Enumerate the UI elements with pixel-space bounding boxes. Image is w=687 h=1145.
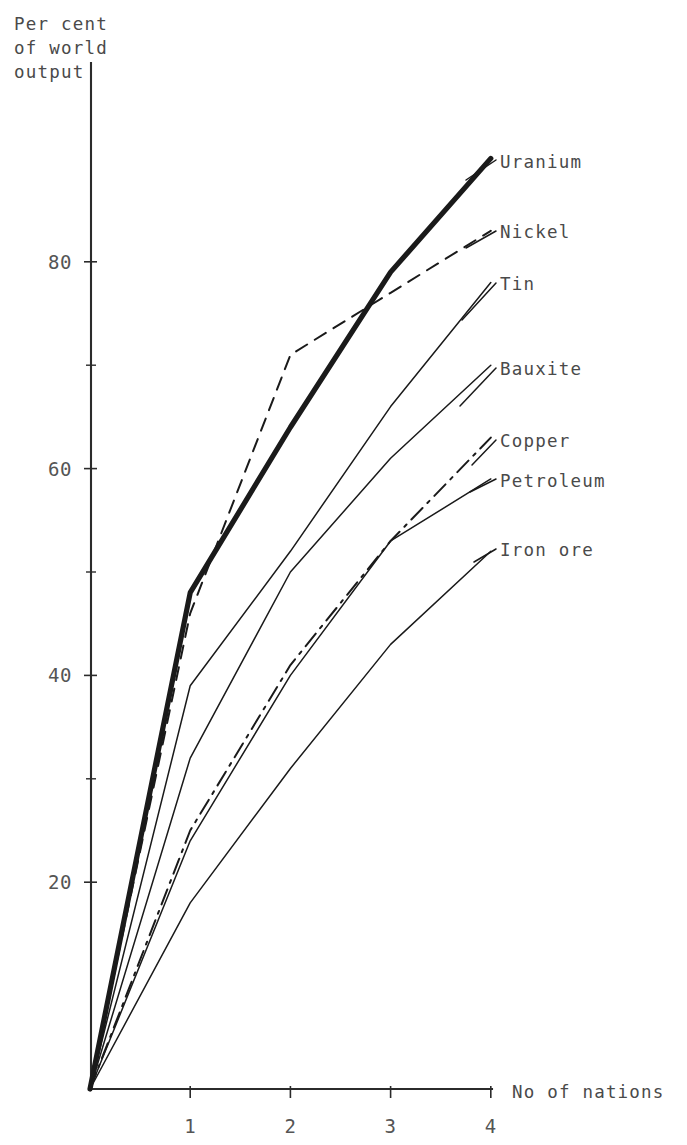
y-axis-ticks: 20406080 (48, 251, 97, 893)
line-chart: Per cent of world output No of nations 2… (0, 0, 687, 1145)
chart-container: Per cent of world output No of nations 2… (0, 0, 687, 1145)
series-label-iron-ore: Iron ore (500, 540, 594, 560)
series-line-nickel (90, 231, 491, 1089)
x-ticklabel-3: 3 (385, 1115, 397, 1137)
series-line-copper (90, 438, 491, 1089)
y-ticklabel-40: 40 (48, 664, 72, 686)
y-axis-title-line-3: output (14, 62, 84, 82)
x-ticklabel-2: 2 (284, 1115, 296, 1137)
y-axis-title-line-2: of world (14, 38, 108, 58)
leader-line-iron-ore (474, 549, 496, 562)
series-label-uranium: Uranium (500, 152, 582, 172)
series-lines (90, 158, 491, 1089)
x-ticklabel-1: 1 (184, 1115, 196, 1137)
x-axis-ticks: 1234 (184, 1086, 497, 1137)
y-axis-title: Per cent of world output (14, 14, 108, 82)
series-line-bauxite (90, 365, 491, 1089)
series-leader-lines (460, 160, 496, 562)
series-labels: UraniumNickelTinBauxiteCopperPetroleumIr… (500, 152, 606, 560)
y-ticklabel-60: 60 (48, 458, 72, 480)
series-label-copper: Copper (500, 431, 570, 451)
x-ticklabel-4: 4 (485, 1115, 497, 1137)
leader-line-bauxite (460, 368, 496, 406)
leader-line-petroleum (470, 479, 496, 492)
leader-line-uranium (466, 160, 496, 180)
leader-line-tin (462, 283, 496, 320)
series-label-bauxite: Bauxite (500, 359, 582, 379)
series-label-nickel: Nickel (500, 222, 570, 242)
series-line-uranium (90, 158, 491, 1089)
leader-line-nickel (466, 231, 496, 248)
series-label-petroleum: Petroleum (500, 471, 606, 491)
y-ticklabel-80: 80 (48, 251, 72, 273)
series-line-iron-ore (90, 551, 491, 1089)
series-label-tin: Tin (500, 274, 535, 294)
x-axis-title: No of nations (512, 1082, 665, 1102)
y-ticklabel-20: 20 (48, 871, 72, 893)
series-line-tin (90, 282, 491, 1089)
y-axis-title-line-1: Per cent (14, 14, 108, 34)
